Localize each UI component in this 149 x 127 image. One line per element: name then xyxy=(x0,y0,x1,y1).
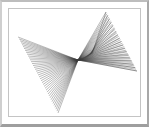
envelope-line xyxy=(48,60,78,94)
envelope-line xyxy=(78,60,137,71)
envelope-line xyxy=(20,41,78,60)
string-art-figure xyxy=(6,6,143,120)
envelope-line xyxy=(25,50,78,60)
envelope-line xyxy=(21,43,78,60)
envelope-lines-group xyxy=(18,12,137,113)
envelope-line xyxy=(24,48,78,60)
envelope-line xyxy=(56,60,78,109)
envelope-line xyxy=(78,24,112,60)
screenshot-root: String Art Envelope Figure xyxy=(0,0,149,127)
envelope-line xyxy=(19,39,78,60)
envelope-line xyxy=(78,15,108,60)
envelope-line xyxy=(50,60,78,98)
envelope-line xyxy=(53,60,78,104)
